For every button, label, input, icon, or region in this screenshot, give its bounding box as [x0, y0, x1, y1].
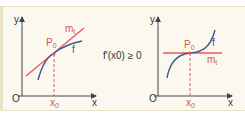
- right-p0-label: P0: [184, 40, 195, 53]
- left-curve-label: f: [72, 45, 75, 55]
- left-x-label: x: [92, 98, 97, 108]
- right-graph: [154, 17, 232, 96]
- right-x-label: x: [228, 98, 233, 108]
- condition-text: f'(x0) ≥ 0: [103, 50, 142, 61]
- left-graph: [18, 17, 96, 96]
- left-x0-label: x0: [50, 98, 59, 111]
- left-tangent-label: mt: [65, 24, 75, 37]
- right-y-label: y: [150, 15, 155, 25]
- left-p0-label: P0: [46, 38, 57, 51]
- left-point-p0: [52, 52, 55, 55]
- right-origin-label: O: [149, 94, 157, 104]
- right-curve-label: f: [212, 38, 215, 48]
- left-y-label: y: [14, 15, 19, 25]
- left-origin-label: O: [12, 94, 20, 104]
- right-tangent-label: mt: [207, 55, 217, 68]
- right-x0-label: x0: [186, 98, 195, 111]
